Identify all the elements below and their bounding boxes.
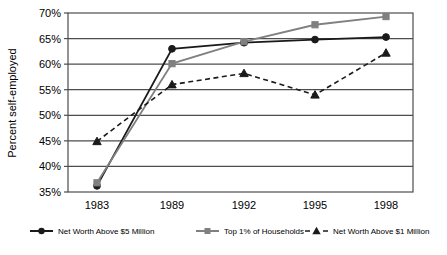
square-marker-icon [312,22,318,28]
y-axis-title: Percent self-employed [6,48,18,157]
y-tick-label: 70% [39,7,61,19]
square-marker-icon [383,13,389,19]
y-tick-label: 50% [39,109,61,121]
x-tick-label: 1998 [374,199,398,211]
y-tick-label: 45% [39,135,61,147]
y-tick-label: 65% [39,33,61,45]
y-tick-label: 60% [39,58,61,70]
circle-marker-icon [312,36,319,43]
self-employment-line-chart: Percent self-employed 35%40%45%50%55%60%… [0,0,447,255]
x-tick-label: 1992 [232,199,256,211]
square-marker-icon [169,61,175,67]
y-tick-label: 55% [39,84,61,96]
y-tick-label: 35% [39,186,61,198]
x-tick-label: 1983 [85,199,109,211]
square-marker-icon [94,180,100,186]
legend-square-marker-icon [205,228,211,234]
y-axis-title-label: Percent self-employed [6,48,18,157]
legend-item-label: Top 1% of Households [224,227,304,236]
circle-marker-icon [383,34,390,41]
legend-item-label: Net Worth Above $5 Million [58,227,154,236]
x-tick-label: 1989 [160,199,184,211]
chart-container: Percent self-employed 35%40%45%50%55%60%… [0,0,447,255]
y-tick-label: 40% [39,160,61,172]
legend-circle-marker-icon [38,228,44,234]
square-marker-icon [241,39,247,45]
legend-item-label: Net Worth Above $1 Million [333,227,429,236]
chart-legend: Net Worth Above $5 MillionTop 1% of Hous… [30,227,429,236]
circle-marker-icon [169,45,176,52]
x-tick-label: 1995 [303,199,327,211]
